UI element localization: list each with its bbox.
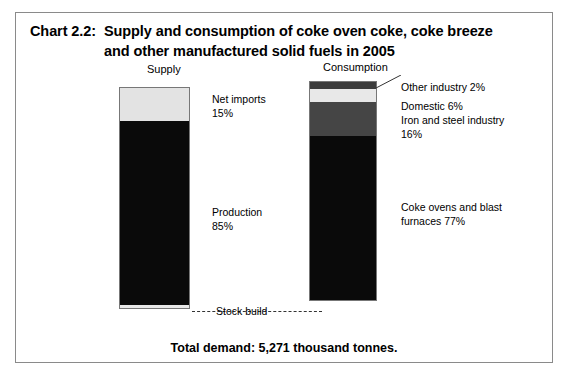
supply-bar bbox=[119, 87, 190, 309]
consumption-column-heading: Consumption bbox=[323, 61, 388, 74]
iron-and-steel-annotation: Iron and steel industry 16% bbox=[401, 114, 504, 141]
total-demand-footer: Total demand: 5,271 thousand tonnes. bbox=[16, 341, 552, 355]
supply-segment-stock-build bbox=[120, 305, 189, 308]
iron-and-steel-annotation-line-1: Iron and steel industry bbox=[401, 114, 504, 128]
supply-segment-net-imports bbox=[120, 88, 189, 121]
net-imports-annotation-line-1: Net imports bbox=[212, 93, 266, 107]
other-industry-leader-line bbox=[374, 75, 402, 89]
stock-build-annotation: Stock build bbox=[216, 305, 267, 319]
coke-ovens-annotation-line-2: furnaces 77% bbox=[401, 215, 502, 229]
consumption-bar bbox=[309, 81, 377, 301]
chart-title: Chart 2.2:Supply and consumption of coke… bbox=[30, 21, 538, 61]
other-industry-annotation: Other industry 2% bbox=[401, 81, 485, 95]
consumption-segment-coke-ovens-blast-furnaces bbox=[310, 136, 376, 300]
coke-ovens-annotation-line-1: Coke ovens and blast bbox=[401, 201, 502, 215]
chart-title-line-2: and other manufactured solid fuels in 20… bbox=[104, 41, 538, 61]
coke-ovens-annotation: Coke ovens and blast furnaces 77% bbox=[401, 201, 502, 228]
chart-title-line-1: Supply and consumption of coke oven coke… bbox=[104, 23, 493, 39]
production-annotation: Production 85% bbox=[212, 206, 262, 233]
chart-number-label: Chart 2.2: bbox=[30, 21, 104, 41]
iron-and-steel-annotation-line-2: 16% bbox=[401, 128, 504, 142]
domestic-annotation: Domestic 6% bbox=[401, 100, 463, 114]
consumption-segment-iron-and-steel bbox=[310, 102, 376, 137]
chart-frame: Chart 2.2:Supply and consumption of coke… bbox=[15, 12, 553, 363]
supply-segment-production bbox=[120, 121, 189, 305]
net-imports-annotation-line-2: 15% bbox=[212, 107, 266, 121]
production-annotation-line-1: Production bbox=[212, 206, 262, 220]
production-annotation-line-2: 85% bbox=[212, 220, 262, 234]
net-imports-annotation: Net imports 15% bbox=[212, 93, 266, 120]
consumption-segment-domestic bbox=[310, 89, 376, 102]
supply-column-heading: Supply bbox=[147, 63, 181, 76]
